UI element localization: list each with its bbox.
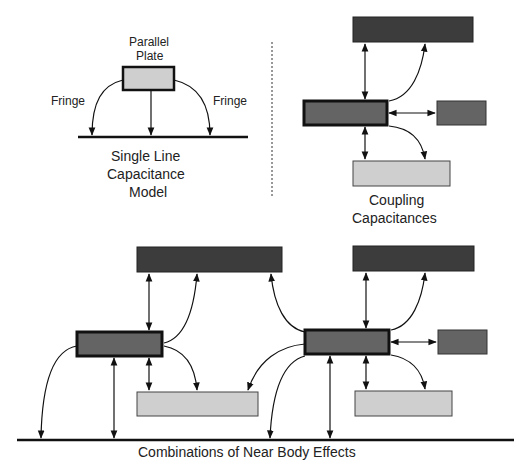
fringe-left-arrow	[92, 80, 123, 135]
single-line-caption-1: Single Line	[111, 148, 180, 164]
bottom-conductor	[353, 161, 450, 186]
fringe-left-label: Fringe	[51, 95, 85, 109]
parallel-label-2: Plate	[136, 50, 163, 64]
single-line-caption-2: Capacitance	[107, 166, 185, 182]
victim-conductor	[304, 101, 387, 125]
side-conductor-2	[438, 330, 487, 354]
top-conductor	[353, 17, 473, 42]
conductor-right	[305, 330, 389, 354]
combination-model	[17, 246, 514, 440]
coupling-caption-2: Capacitances	[352, 210, 437, 226]
single-line-caption-3: Model	[129, 184, 167, 200]
coupling-caption-1: Coupling	[369, 192, 424, 208]
bottom-conductor-right	[355, 391, 452, 416]
fringe-right-arrow	[174, 80, 210, 135]
top-conductor-right	[353, 246, 474, 271]
single-conductor	[123, 67, 174, 90]
combination-caption: Combinations of Near Body Effects	[138, 444, 356, 460]
fringe-right-label: Fringe	[213, 95, 247, 109]
top-conductor-left	[137, 247, 282, 272]
parallel-label-1: Parallel	[129, 36, 169, 50]
side-conductor	[437, 101, 486, 125]
capacitance-diagram	[0, 0, 527, 475]
coupling-model	[304, 17, 486, 186]
conductor-left	[77, 332, 162, 356]
bottom-conductor-left	[137, 392, 258, 416]
